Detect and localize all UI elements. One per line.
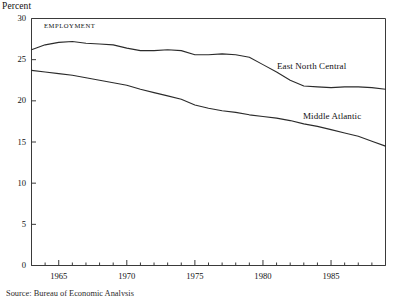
y-tick-label: 10 [6,178,26,188]
x-tick-label: 1980 [246,271,280,281]
x-tick-label: 1975 [178,271,212,281]
x-tick-label: 1965 [42,271,76,281]
y-tick-label: 25 [6,54,26,64]
x-tick-label: 1985 [314,271,348,281]
series-label-east-north-central: East North Central [277,61,346,71]
y-tick-label: 5 [6,219,26,229]
chart-figure: Percent EMPLOYMENT East North Central Mi… [0,0,397,296]
series-line-middle-atlantic [32,70,386,146]
y-tick-label: 20 [6,95,26,105]
panel-tag-employment: EMPLOYMENT [44,22,95,29]
y-tick-label: 15 [6,137,26,147]
series-label-middle-atlantic: Middle Atlantic [303,111,361,121]
axes-group [32,19,386,266]
y-tick-label: 30 [6,13,26,23]
y-tick-label: 0 [6,260,26,270]
x-tick-label: 1970 [110,271,144,281]
data-series-group [32,42,386,147]
plot-area [0,0,397,296]
source-note: Source: Bureau of Economic Analysis [6,289,397,296]
y-axis-unit-label: Percent [2,1,31,11]
tick-marks-group [32,19,386,266]
